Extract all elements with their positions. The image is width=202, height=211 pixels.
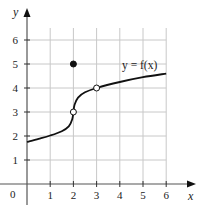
open-point [70, 109, 76, 115]
y-tick-label: 1 [13, 154, 19, 166]
y-tick-label: 2 [13, 130, 19, 142]
x-tick-label: 3 [94, 189, 100, 201]
x-tick-label: 4 [117, 189, 123, 201]
grid-lines [27, 28, 166, 184]
y-tick-label: 3 [13, 106, 19, 118]
filled-point [70, 61, 76, 67]
y-axis-label: y [12, 5, 19, 19]
function-graph: 123456123456 y = f(x) x y 0 [0, 0, 202, 211]
x-axis-arrow-icon [187, 181, 196, 188]
open-point [94, 85, 100, 91]
x-tick-label: 2 [71, 189, 77, 201]
y-tick-label: 4 [13, 82, 19, 94]
x-tick-label: 6 [163, 189, 169, 201]
function-label: y = f(x) [122, 59, 157, 72]
x-tick-label: 5 [140, 189, 146, 201]
y-tick-label: 6 [13, 34, 19, 46]
origin-label: 0 [10, 188, 16, 200]
x-axis-label: x [187, 189, 194, 203]
y-tick-label: 5 [13, 58, 19, 70]
y-axis-arrow-icon [24, 8, 31, 17]
x-tick-label: 1 [47, 189, 53, 201]
